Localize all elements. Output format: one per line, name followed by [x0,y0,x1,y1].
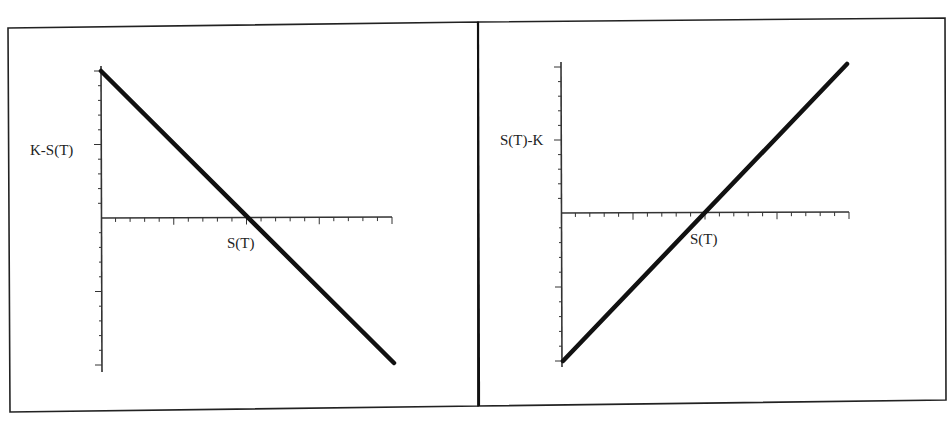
y-axis-label: S(T)-K [500,132,543,149]
y-axis-label: K-S(T) [30,142,73,159]
x-axis-label: S(T) [690,231,718,248]
call-payoff-chart: S(T)-K S(T) [500,62,849,367]
put-payoff-chart: K-S(T) S(T) [30,66,394,372]
y-axis [561,62,562,367]
x-axis-label: S(T) [227,235,255,252]
payoff-figure: K-S(T) S(T) S(T)-K S(T) [0,0,951,424]
y-axis [101,66,102,372]
panel-divider [478,22,479,406]
